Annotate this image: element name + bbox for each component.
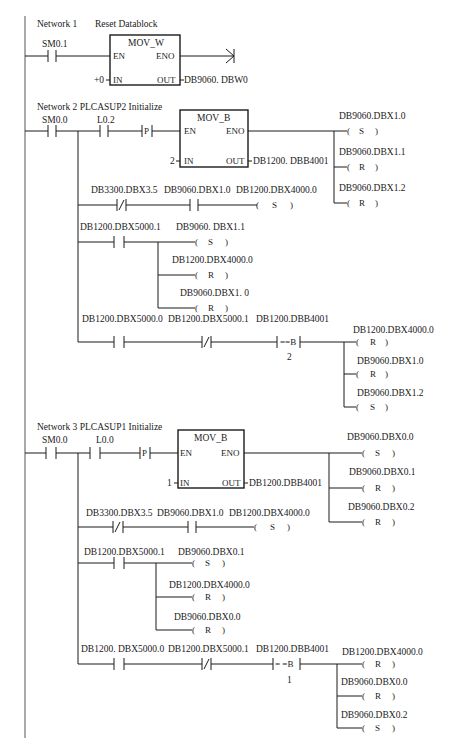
reset-coil-icon: (R) (362, 691, 395, 701)
compare-value: 1 (287, 675, 292, 685)
nc-contact-icon (113, 521, 123, 533)
contact-label: DB1200. DBX5000.0 (81, 644, 164, 654)
block-name: MOV_B (194, 433, 227, 443)
no-contact-icon (48, 125, 56, 137)
contact-label: SM0.1 (42, 39, 68, 49)
coil-label: DB9060.DBX1.1 (339, 147, 406, 157)
en-label: EN (180, 448, 192, 458)
svg-text:(: ( (195, 303, 198, 313)
no-contact-icon (188, 521, 196, 533)
reset-coil-icon: (R) (192, 625, 225, 635)
positive-edge-icon: P (142, 125, 152, 137)
svg-text:): ) (392, 691, 395, 701)
svg-text:): ) (375, 162, 378, 172)
out-label: OUT (222, 478, 241, 488)
coil-label: DB1200.DBX4000.0 (236, 185, 317, 195)
svg-text:S: S (272, 200, 277, 210)
svg-text:): ) (222, 558, 225, 568)
compare-value: 2 (287, 352, 292, 362)
contact-label: DB9060.DBX1.0 (164, 185, 231, 195)
contact-label: DB1200.DBX5000.1 (168, 644, 249, 654)
mov-b-block: MOV_B EN ENO IN OUT 1 DB1200.DBB4001 (167, 430, 322, 488)
mov-w-block: MOV_W EN ENO IN OUT +0 DB9060. DBW0 (94, 35, 248, 85)
no-contact-icon (114, 236, 124, 248)
coil-label: DB9060.DBX1.2 (339, 183, 406, 193)
coil-label: DB9060.DBX1.2 (357, 388, 424, 398)
contact-label: SM0.0 (42, 115, 68, 125)
no-contact-icon (25, 50, 110, 62)
in-label: IN (184, 156, 194, 166)
reset-coil-icon: (R) (356, 369, 388, 379)
set-coil-icon: (S) (256, 200, 293, 210)
network-1-comment: Reset Datablock (95, 19, 158, 29)
coil-label: DB9060.DBX0.2 (341, 710, 408, 720)
svg-text:R: R (370, 369, 376, 379)
out-value: DB1200. DBB4001 (253, 156, 329, 166)
reset-coil-icon: (R) (362, 483, 395, 493)
svg-text:(: ( (362, 517, 365, 527)
svg-text:(: ( (195, 270, 198, 280)
coil-label: DB9060.DBX0.1 (178, 547, 245, 557)
no-contact-icon (100, 125, 108, 137)
out-value: DB1200.DBB4001 (249, 478, 322, 488)
reset-coil-icon: (R) (347, 198, 378, 208)
svg-text:(: ( (256, 200, 259, 210)
compare-label: DB1200.DBB4001 (256, 644, 329, 654)
no-contact-icon (190, 199, 198, 211)
no-contact-icon (90, 447, 100, 459)
set-coil-icon: (S) (362, 448, 395, 458)
svg-text:(: ( (192, 592, 195, 602)
contact-label: L0.0 (96, 435, 114, 445)
reset-coil-icon: (R) (362, 517, 395, 527)
reset-coil-icon: (R) (356, 337, 388, 347)
svg-text:(: ( (254, 522, 257, 532)
no-contact-icon (46, 447, 56, 459)
coil-label: DB9060. DBX1.1 (176, 222, 245, 232)
network-2: Network 2 PLCASUP2 Initialize SM0.0 L0.2… (25, 102, 434, 412)
out-value: DB9060. DBW0 (184, 75, 248, 85)
svg-text:): ) (385, 402, 388, 412)
reset-coil-icon: (R) (195, 303, 228, 313)
coil-label: DB1200.DBX4000.0 (229, 508, 310, 518)
svg-text:R: R (359, 198, 365, 208)
svg-text:(: ( (195, 237, 198, 247)
svg-text:): ) (392, 517, 395, 527)
coil-label: DB9060.DBX0.1 (349, 467, 416, 477)
no-contact-icon (114, 557, 124, 569)
svg-text:R: R (370, 337, 376, 347)
contact-label: DB1200.DBX5000.1 (80, 222, 161, 232)
network-1-title: Network 1 (37, 19, 78, 29)
in-label: IN (180, 478, 190, 488)
reset-coil-icon: (R) (362, 659, 395, 669)
svg-text:(: ( (192, 625, 195, 635)
svg-text:P: P (142, 448, 147, 458)
svg-text:==B: ==B (280, 337, 296, 347)
coil-label: DB1200.DBX4000.0 (169, 580, 250, 590)
svg-text:(: ( (347, 126, 350, 136)
svg-text:(: ( (347, 198, 350, 208)
mov-b-block: MOV_B EN ENO IN OUT 2 DB1200. DBB4001 (170, 110, 329, 167)
svg-text:(: ( (192, 558, 195, 568)
svg-text:): ) (392, 483, 395, 493)
coil-label: DB9060.DBX0.2 (348, 502, 415, 512)
svg-text:): ) (290, 200, 293, 210)
svg-text:(: ( (362, 448, 365, 458)
compare-label: DB1200.DBB4001 (256, 314, 329, 324)
svg-text:= =B: = =B (275, 659, 293, 669)
svg-text:(: ( (362, 723, 365, 733)
svg-text:): ) (222, 592, 225, 602)
nc-contact-icon (202, 336, 211, 348)
svg-text:): ) (385, 369, 388, 379)
network-1: Network 1 Reset Datablock SM0.1 MOV_W EN… (25, 19, 248, 85)
compare-byte-icon: = =B (273, 658, 300, 670)
svg-text:): ) (225, 270, 228, 280)
out-label: OUT (226, 156, 245, 166)
eno-label: ENO (221, 448, 240, 458)
svg-text:R: R (205, 592, 211, 602)
svg-text:(: ( (362, 483, 365, 493)
out-label: OUT (157, 75, 176, 85)
svg-text:(: ( (362, 691, 365, 701)
block-name: MOV_B (197, 113, 230, 123)
svg-text:): ) (375, 198, 378, 208)
svg-text:S: S (270, 522, 275, 532)
